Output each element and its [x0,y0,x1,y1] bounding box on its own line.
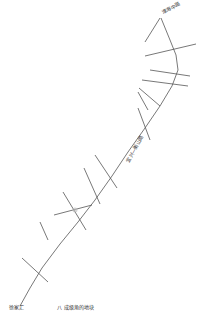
cross-street [95,155,117,188]
cross-street [22,258,48,282]
cross-street [150,70,190,76]
cross-street [142,80,188,86]
side-street [145,18,160,42]
legend-label: 八 成级角的地块 [57,303,94,310]
cross-street [145,44,196,56]
cross-street [40,222,48,240]
cross-street [139,88,160,106]
street-map [0,0,204,324]
bottom-endpoint-label: 徐家汇 [9,303,24,310]
intersection-marker [73,208,78,213]
main-road [20,18,178,306]
cross-street [84,168,100,204]
